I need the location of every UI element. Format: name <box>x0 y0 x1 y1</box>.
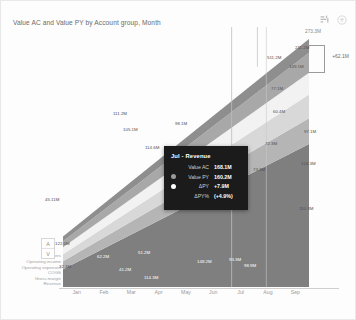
tooltip-series-dot-icon <box>171 174 176 179</box>
x-tick-sep: Sep <box>282 289 309 301</box>
tooltip-row: ΔPY+7.9M <box>171 183 241 189</box>
tooltip-row-value: 168.1M <box>214 164 241 170</box>
variance-bracket <box>308 45 325 73</box>
x-tick-apr: Apr <box>145 289 172 301</box>
x-tick-mar: Mar <box>118 289 145 301</box>
x-tick-jun: Jun <box>200 289 227 301</box>
tooltip-dot-placeholder <box>171 193 176 198</box>
tooltip-row-key: ΔPY <box>179 183 214 189</box>
chart-tooltip: Jul - Revenue Value AC168.1MValue PY160.… <box>164 146 248 210</box>
tooltip-title: Jul - Revenue <box>171 153 241 159</box>
total-value-label: 273.3M <box>305 29 321 34</box>
data-label: 22.4M <box>4 289 16 294</box>
x-tick-may: May <box>172 289 199 301</box>
tooltip-rows: Value AC168.1MValue PY160.2MΔPY+7.9MΔPY%… <box>171 164 241 199</box>
tooltip-row-key: ΔPY% <box>179 193 214 199</box>
sort-descending-button[interactable]: V <box>42 249 54 258</box>
x-tick-jan: Jan <box>63 289 90 301</box>
data-label: 45.11M <box>45 197 59 202</box>
x-tick-aug: Aug <box>254 289 281 301</box>
tooltip-row: Value PY160.2M <box>171 174 241 180</box>
x-axis-labels: Jan Feb Mar Apr May Jun Jul Aug Sep <box>63 289 309 301</box>
page-title: Value AC and Value PY by Account group, … <box>13 19 161 26</box>
tooltip-row: ΔPY%(+4.9%) <box>171 193 241 199</box>
tooltip-row-key: Value PY <box>179 174 214 180</box>
legend-item-revenue[interactable]: Revenue <box>43 281 61 287</box>
tooltip-row-value: (+4.9%) <box>214 193 241 199</box>
variance-label: +62.1M <box>332 53 349 59</box>
tooltip-series-dot-icon <box>171 184 176 189</box>
header-icon-group <box>320 11 347 29</box>
tooltip-row-value: 160.2M <box>214 174 241 180</box>
x-tick-jul: Jul <box>227 289 254 301</box>
x-tick-feb: Feb <box>90 289 117 301</box>
tooltip-row-key: Value AC <box>179 164 214 170</box>
chart-settings-icon[interactable] <box>320 11 330 29</box>
chart-card: Value AC and Value PY by Account group, … <box>0 0 356 320</box>
sort-ascending-button[interactable]: A <box>42 239 54 249</box>
tooltip-dot-placeholder <box>171 165 176 170</box>
sort-toggle[interactable]: A V <box>41 238 55 259</box>
tooltip-row-value: +7.9M <box>214 183 241 189</box>
info-circle-icon[interactable] <box>337 11 347 29</box>
tooltip-row: Value AC168.1M <box>171 164 241 170</box>
